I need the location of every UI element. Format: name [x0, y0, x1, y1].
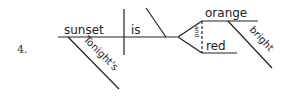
- adjective-red: red: [206, 39, 226, 53]
- item-number: 4.: [17, 43, 28, 56]
- predicate-slant-line: [146, 8, 166, 37]
- subject-modifier-word: Tonight's: [81, 33, 121, 73]
- sentence-diagram: 4. sunset Tonight's is and orange red br…: [0, 0, 292, 96]
- adjective-modifier-word: bright: [248, 24, 276, 53]
- subject-word: sunset: [64, 23, 104, 37]
- verb-word: is: [131, 23, 141, 37]
- adjective-orange: orange: [205, 6, 247, 20]
- conjunction-word: and: [194, 26, 201, 37]
